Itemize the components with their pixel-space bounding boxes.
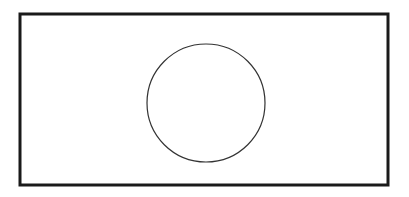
diagram-canvas — [0, 0, 409, 197]
center-circle — [147, 44, 265, 162]
outer-frame-rectangle — [20, 14, 388, 185]
